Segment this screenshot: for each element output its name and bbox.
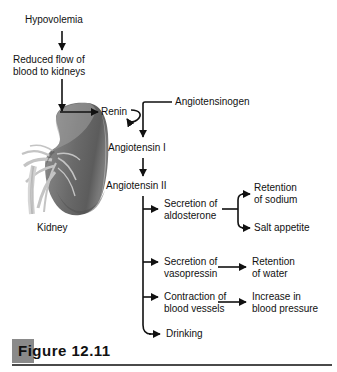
caption-rule <box>12 364 332 366</box>
label-secretion-aldosterone-line1: Secretion of <box>164 198 217 210</box>
figure-page: Hypovolemia Reduced flow of blood to kid… <box>0 0 337 372</box>
label-retention-water-line2: of water <box>252 268 288 280</box>
label-increase-bp-line2: blood pressure <box>252 303 318 315</box>
label-contraction-vessels-line1: Contraction of <box>164 291 226 303</box>
label-secretion-vasopressin-line2: vasopressin <box>164 268 217 280</box>
line-aldosterone-up <box>238 194 244 209</box>
spine-angiotensin2 <box>143 196 151 334</box>
arrow-renin-hook <box>127 110 140 122</box>
label-kidney: Kidney <box>37 222 68 234</box>
label-hypovolemia: Hypovolemia <box>25 14 83 26</box>
label-secretion-vasopressin-line1: Secretion of <box>164 256 217 268</box>
line-aldosterone-down <box>238 209 244 228</box>
label-retention-sodium-line2: of sodium <box>254 194 297 206</box>
label-angiotensin-2: Angiotensin II <box>106 180 167 192</box>
label-reduced-flow-line1: Reduced flow of <box>13 54 85 66</box>
line-angiotensinogen-feeder <box>143 102 172 106</box>
label-retention-sodium-line1: Retention <box>254 182 297 194</box>
label-reduced-flow-line2: blood to kidneys <box>13 66 85 78</box>
label-salt-appetite: Salt appetite <box>254 222 310 234</box>
label-angiotensin-1: Angiotensin I <box>108 142 166 154</box>
label-retention-water-line1: Retention <box>252 256 295 268</box>
label-renin: Renin <box>101 106 127 118</box>
label-angiotensinogen: Angiotensinogen <box>175 96 250 108</box>
label-increase-bp-line1: Increase in <box>252 291 301 303</box>
label-secretion-aldosterone-line2: aldosterone <box>164 210 216 222</box>
label-contraction-vessels-line2: blood vessels <box>164 303 225 315</box>
figure-caption: Figure 12.11 <box>18 342 111 359</box>
label-drinking: Drinking <box>166 328 203 340</box>
